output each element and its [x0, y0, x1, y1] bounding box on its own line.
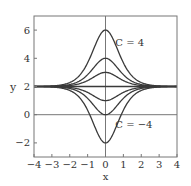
y-axis-label: y: [9, 81, 17, 94]
x-tick-label: −4: [27, 159, 42, 170]
y-tick-label: 2: [24, 81, 30, 92]
x-tick-label: −3: [45, 159, 60, 170]
curve-annotation: C = −4: [115, 119, 152, 130]
y-tick-label: 6: [24, 25, 30, 36]
x-tick-label: 1: [120, 159, 126, 170]
y-tick-label: 0: [24, 109, 30, 120]
curve-annotation: C = 4: [115, 37, 144, 48]
tick-labels: −4−3−2−101234−20246: [15, 25, 180, 170]
x-tick-label: 2: [138, 159, 144, 170]
x-tick-label: 4: [174, 159, 180, 170]
x-tick-label: −2: [62, 159, 77, 170]
x-tick-label: 0: [102, 159, 108, 170]
y-tick-label: −2: [15, 137, 30, 148]
x-tick-label: 3: [156, 159, 162, 170]
chart: −4−3−2−101234−20246 x y C = 4C = −4: [0, 0, 191, 186]
x-axis-label: x: [103, 171, 109, 182]
x-tick-label: −1: [80, 159, 95, 170]
y-tick-label: 4: [24, 53, 30, 64]
